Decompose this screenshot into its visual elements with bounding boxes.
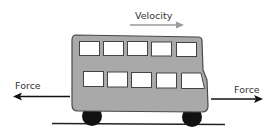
force-left-arrow xyxy=(13,93,70,101)
window xyxy=(84,72,104,87)
window xyxy=(104,42,124,56)
window-front xyxy=(182,73,205,89)
force-left-label: Force xyxy=(15,80,41,91)
velocity-label: Velocity xyxy=(135,10,173,21)
force-right-arrow xyxy=(211,95,263,103)
window xyxy=(177,43,197,57)
velocity-arrow xyxy=(130,22,184,29)
force-right-label: Force xyxy=(234,84,260,95)
window xyxy=(157,73,177,88)
upper-windows xyxy=(80,42,197,57)
window xyxy=(128,42,148,56)
window xyxy=(132,73,152,88)
bus-forces-diagram: Velocity Force Force xyxy=(0,0,273,133)
window xyxy=(108,72,128,87)
window xyxy=(152,42,172,56)
lower-windows xyxy=(84,72,205,89)
window xyxy=(80,42,100,56)
